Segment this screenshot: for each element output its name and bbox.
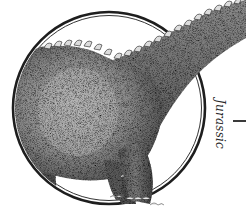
era-label: Jurassic <box>212 84 228 164</box>
era-label-text: Jurassic <box>213 99 227 149</box>
timeline-tick <box>233 120 246 122</box>
illustration: Jurassic <box>0 0 246 211</box>
dinosaur-illustration <box>0 0 246 211</box>
